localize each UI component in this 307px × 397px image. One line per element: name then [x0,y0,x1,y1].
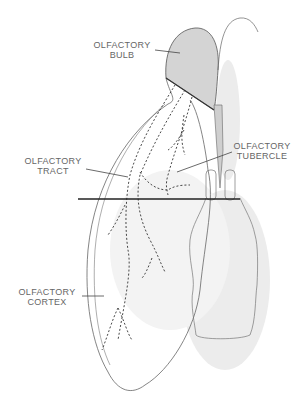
label-line: TRACT [20,166,86,176]
label-olfactory-tubercle: OLFACTORY TUBERCLE [228,141,296,161]
label-line: TUBERCLE [228,151,296,161]
label-line: OLFACTORY [228,141,296,151]
stipple-shading [110,60,270,370]
label-olfactory-tract: OLFACTORY TRACT [20,156,86,176]
olfactory-peduncle [214,105,223,188]
label-line: OLFACTORY [20,156,86,166]
label-olfactory-bulb: OLFACTORY BULB [90,40,154,60]
label-line: OLFACTORY [90,40,154,50]
label-line: CORTEX [14,297,80,307]
olfactory-nerve-strand [218,18,258,70]
label-line: BULB [90,50,154,60]
label-olfactory-cortex: OLFACTORY CORTEX [14,287,80,307]
label-line: OLFACTORY [14,287,80,297]
